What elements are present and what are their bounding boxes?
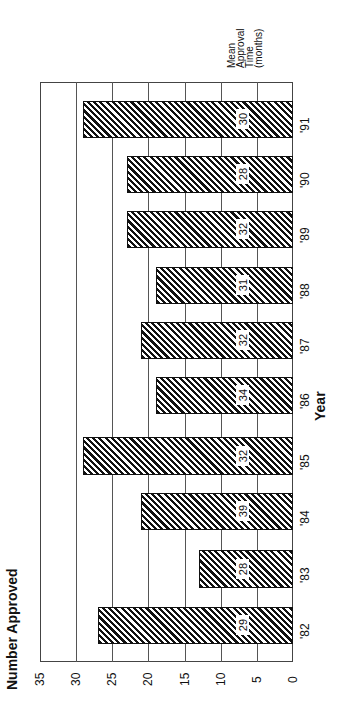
gridline-25 [112,82,113,662]
months-label-1985: 32 [236,446,249,466]
year-label-1984: '84 [298,510,312,526]
y-axis-title: Number Approved [4,568,20,690]
bar-1990 [127,156,293,193]
year-label-1985: '85 [298,454,312,470]
tick-0: 0 [286,676,300,683]
tick-30: 30 [69,673,83,686]
year-label-1988: '88 [298,283,312,299]
months-label-1988: 31 [236,275,249,295]
months-label-1983: 28 [236,559,249,579]
year-label-1982: '82 [298,623,312,639]
bar-1984 [141,493,293,530]
months-label-1991: 30 [236,109,249,129]
months-label-1989: 32 [236,219,249,239]
year-label-1987: '87 [298,338,312,354]
tick-35: 35 [33,673,47,686]
bar-1982 [98,607,293,644]
tick-10: 10 [214,673,228,686]
bar-1985 [83,437,293,475]
year-label-1983: '83 [298,567,312,583]
legend-annotation: Mean Approval Time (months) [227,29,263,68]
bar-1988 [156,267,293,304]
tick-20: 20 [141,673,155,686]
tick-5: 5 [250,676,264,683]
year-label-1990: '90 [298,172,312,188]
tick-15: 15 [178,673,192,686]
bar-1989 [127,211,293,248]
year-label-1986: '86 [298,393,312,409]
bar-1991 [83,101,293,138]
gridline-30 [76,82,77,662]
months-label-1982: 29 [236,615,249,635]
x-axis-title: Year [312,391,328,421]
bar-1986 [156,377,293,414]
months-label-1986: 34 [236,385,249,405]
bar-1987 [141,322,293,359]
year-label-1989: '89 [298,227,312,243]
tick-25: 25 [105,673,119,686]
year-label-1991: '91 [298,117,312,133]
months-label-1987: 32 [236,330,249,350]
months-label-1990: 28 [236,164,249,184]
months-label-1984: 39 [236,501,249,521]
legend-line-4: (months) [254,29,263,68]
